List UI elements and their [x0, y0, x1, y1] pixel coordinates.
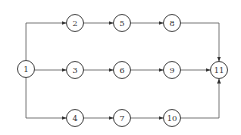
node-label: 6 [119, 66, 124, 75]
node-10: 10 [164, 110, 181, 127]
node-label: 3 [72, 66, 77, 75]
edge-1-to-2 [26, 23, 67, 61]
node-label: 9 [169, 66, 174, 75]
node-label: 4 [72, 114, 77, 123]
edge-1-to-4 [26, 78, 67, 119]
diagram-svg: 1258369114710 [0, 0, 241, 135]
node-2: 2 [67, 15, 84, 32]
network-diagram: 1258369114710 [0, 0, 241, 135]
node-4: 4 [67, 110, 84, 127]
node-label: 2 [72, 19, 77, 28]
node-label: 7 [119, 114, 124, 123]
node-label: 11 [214, 66, 224, 75]
node-label: 10 [167, 114, 177, 123]
node-11: 11 [211, 62, 228, 79]
node-label: 1 [23, 65, 28, 74]
node-9: 9 [164, 62, 181, 79]
node-3: 3 [67, 62, 84, 79]
nodes-group: 1258369114710 [18, 15, 228, 127]
node-8: 8 [164, 15, 181, 32]
edge-8-to-11 [181, 23, 220, 62]
edge-10-to-11 [181, 79, 220, 119]
node-6: 6 [114, 62, 131, 79]
node-7: 7 [114, 110, 131, 127]
node-label: 8 [169, 19, 174, 28]
node-1: 1 [18, 61, 35, 78]
node-label: 5 [119, 19, 124, 28]
node-5: 5 [114, 15, 131, 32]
